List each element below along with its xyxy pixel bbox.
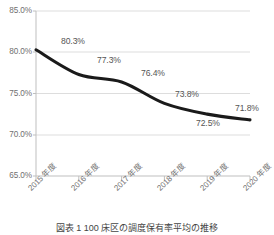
data-label-2020: 71.8% xyxy=(235,103,259,113)
data-label-2018: 73.8% xyxy=(175,89,199,99)
y-tick-label-65: 65.0% xyxy=(0,171,32,180)
figure-caption: 図表 1 100 床区の調度保有率平均の推移 xyxy=(0,221,274,234)
data-series-line xyxy=(36,50,250,120)
data-label-2015: 80.3% xyxy=(61,36,85,46)
data-label-2019: 72.5% xyxy=(196,118,220,128)
y-tick-label-80: 80.0% xyxy=(0,47,32,56)
data-label-2017: 76.4% xyxy=(141,68,165,78)
y-tick-label-75: 75.0% xyxy=(0,89,32,98)
y-tick-label-70: 70.0% xyxy=(0,130,32,139)
data-label-2016: 77.3% xyxy=(97,55,121,65)
line-chart-plot xyxy=(0,0,274,235)
chart-figure: 85.0% 80.0% 75.0% 70.0% 65.0% 2015 年度 20… xyxy=(0,0,274,235)
y-tick-label-85: 85.0% xyxy=(0,6,32,15)
